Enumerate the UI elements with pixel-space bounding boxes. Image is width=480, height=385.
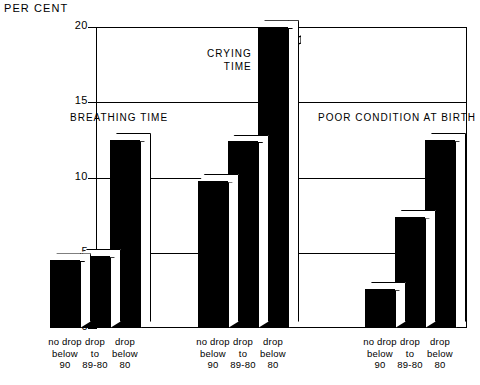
y-tick-label-10: 10	[4, 170, 88, 182]
y-tick-10	[88, 178, 97, 179]
x-category-label-line1: drop	[419, 336, 461, 348]
bar	[198, 174, 239, 328]
x-category-label-line1: drop	[252, 336, 294, 348]
x-category-label-line2: below	[252, 348, 294, 360]
group-label: BREATHING TIME	[70, 112, 168, 123]
group-label: POOR CONDITION AT BIRTH	[318, 112, 476, 123]
group-label-line2: TIME	[207, 60, 252, 73]
bar-side-edge	[288, 20, 299, 328]
bar-side-edge	[258, 135, 269, 328]
bar-front-face	[198, 181, 228, 328]
bar-side-edge	[140, 133, 151, 328]
x-category-label-line3: 80	[104, 359, 146, 371]
y-tick-0	[88, 328, 97, 329]
x-category-label-line3: 80	[252, 359, 294, 371]
y-tick-20	[88, 27, 97, 28]
x-category-label-line3: 80	[419, 359, 461, 371]
x-category-label-line2: below	[419, 348, 461, 360]
bar-side-edge	[425, 210, 436, 328]
y-tick-label-15: 15	[4, 94, 88, 106]
bar-side-edge	[228, 174, 239, 328]
group-label: CRYINGTIME	[207, 47, 252, 73]
x-category-label: dropbelow80	[252, 336, 294, 371]
bar-side-edge	[80, 253, 91, 328]
x-category-label: dropbelow80	[104, 336, 146, 371]
y-tick-label-20: 20	[4, 19, 88, 31]
group-label-line1: CRYING	[207, 48, 252, 59]
y-axis-title: PER CENT	[4, 2, 68, 14]
bar	[50, 253, 91, 328]
bar-side-edge	[110, 249, 121, 328]
bar-front-face	[50, 260, 80, 328]
x-category-label-line1: drop	[104, 336, 146, 348]
bar-side-edge	[455, 133, 466, 328]
group-label-line1: POOR CONDITION AT BIRTH	[318, 112, 476, 123]
bar	[365, 282, 406, 328]
x-category-label-line2: below	[104, 348, 146, 360]
x-category-label: dropbelow80	[419, 336, 461, 371]
y-tick-15	[88, 102, 97, 103]
bar-chart: PER CENT 05101520 BREATHING TIMECRYINGTI…	[0, 0, 480, 385]
group-label-line1: BREATHING TIME	[70, 112, 168, 123]
bar-front-face	[365, 289, 395, 328]
